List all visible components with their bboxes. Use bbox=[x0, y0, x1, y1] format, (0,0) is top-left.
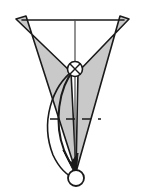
endpoint-open-circle bbox=[68, 170, 84, 186]
figure-root bbox=[0, 0, 150, 193]
pivot-crossed-circle-node bbox=[68, 62, 83, 77]
v-wing-diagram-svg bbox=[0, 0, 150, 193]
